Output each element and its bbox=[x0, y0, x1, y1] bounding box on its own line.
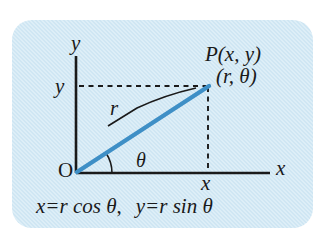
origin-label: O bbox=[58, 160, 73, 181]
point-cartesian-label: P(x, y) bbox=[205, 44, 261, 65]
formula-y-equation: y=r sin θ bbox=[136, 194, 213, 218]
radius-label: r bbox=[110, 98, 118, 119]
point-polar-label: (r, θ) bbox=[216, 66, 257, 87]
x-tick-label: x bbox=[201, 173, 210, 194]
formula-row: x=r cos θ,y=r sin θ bbox=[36, 196, 213, 217]
radius-leader-line bbox=[108, 88, 196, 126]
x-axis-label: x bbox=[276, 158, 285, 179]
angle-arc bbox=[106, 153, 112, 173]
formula-x-equation: x=r cos θ bbox=[36, 194, 116, 218]
y-tick-label: y bbox=[55, 76, 64, 97]
figure-root: y x y x O r θ P(x, y) (r, θ) x=r cos θ,y… bbox=[0, 0, 325, 247]
angle-label: θ bbox=[136, 150, 146, 170]
formula-separator: , bbox=[116, 194, 121, 218]
y-axis-label: y bbox=[71, 33, 80, 54]
